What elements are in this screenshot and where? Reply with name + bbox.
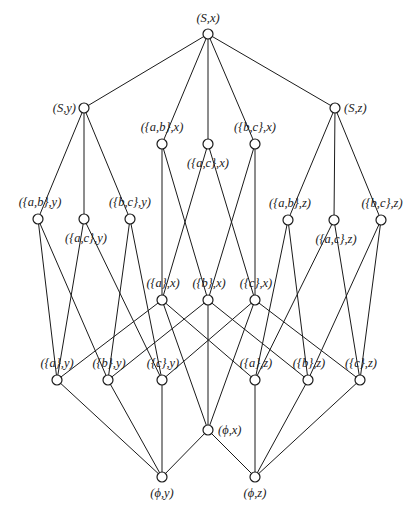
edge-b_z-phi_z xyxy=(255,380,308,477)
node-label-a_x: ({a},x) xyxy=(146,276,179,290)
node-label-phi_x: (ϕ,x) xyxy=(218,423,241,437)
edge-S_x-S_z xyxy=(208,34,335,108)
node-label-ac_x: ({a,c},x) xyxy=(187,156,229,170)
node-label-ac_y: ({a,c},y) xyxy=(65,231,107,245)
node-label-phi_z: (ϕ,z) xyxy=(244,486,267,500)
node-label-phi_y: (ϕ,y) xyxy=(150,486,173,500)
node-ab_z xyxy=(283,215,293,225)
node-ac_y xyxy=(79,214,89,224)
node-label-b_y: ({b},y) xyxy=(92,356,125,370)
node-a_y xyxy=(52,375,62,385)
hasse-diagram-svg: (S,x)(S,y)(S,z)({a,b},x)({a,c},x)({b,c},… xyxy=(0,0,417,512)
node-bc_x xyxy=(250,139,260,149)
node-b_y xyxy=(103,375,113,385)
node-c_z xyxy=(355,375,365,385)
edge-phi_x-phi_z xyxy=(208,430,255,477)
node-label-S_y: (S,y) xyxy=(53,101,76,115)
lattice-diagram: (S,x)(S,y)(S,z)({a,b},x)({a,c},x)({b,c},… xyxy=(0,0,417,512)
node-a_x xyxy=(157,295,167,305)
edge-b_y-phi_y xyxy=(108,380,162,477)
node-label-b_z: ({b},z) xyxy=(293,356,326,370)
node-a_z xyxy=(250,375,260,385)
node-c_y xyxy=(157,375,167,385)
node-label-ab_z: ({a,b},z) xyxy=(269,196,311,210)
edge-S_x-S_y xyxy=(84,34,208,108)
node-label-bc_y: ({b,c},y) xyxy=(109,195,151,209)
node-label-c_x: ({c},x) xyxy=(240,276,273,290)
node-S_y xyxy=(79,103,89,113)
node-label-S_z: (S,z) xyxy=(344,101,367,115)
node-label-b_x: ({b},x) xyxy=(192,276,225,290)
edge-phi_x-phi_y xyxy=(162,430,208,477)
node-ac_z xyxy=(329,215,339,225)
node-label-a_y: ({a},y) xyxy=(40,356,73,370)
node-bc_z xyxy=(376,215,386,225)
node-label-c_z: ({c},z) xyxy=(345,356,377,370)
edges-layer xyxy=(38,34,381,477)
edge-c_z-phi_z xyxy=(255,380,360,477)
node-label-ab_y: ({a,b},y) xyxy=(19,195,62,209)
node-ab_x xyxy=(157,139,167,149)
node-phi_x xyxy=(203,425,213,435)
node-bc_y xyxy=(125,214,135,224)
node-phi_y xyxy=(157,472,167,482)
node-S_x xyxy=(203,29,213,39)
edge-a_y-phi_y xyxy=(57,380,162,477)
node-c_x xyxy=(250,295,260,305)
node-label-c_y: ({c},y) xyxy=(147,356,180,370)
node-label-bc_x: ({b,c},x) xyxy=(234,120,276,134)
node-label-ab_x: ({a,b},x) xyxy=(141,120,184,134)
node-label-a_z: ({a},z) xyxy=(240,356,273,370)
node-label-ac_z: ({a,c},z) xyxy=(315,232,356,246)
node-b_z xyxy=(303,375,313,385)
node-label-bc_z: ({b,c},z) xyxy=(361,196,402,210)
node-S_z xyxy=(330,103,340,113)
node-phi_z xyxy=(250,472,260,482)
edge-S_z-ac_z xyxy=(334,108,335,220)
nodes-layer xyxy=(33,29,386,482)
node-ab_y xyxy=(33,214,43,224)
node-b_x xyxy=(203,295,213,305)
node-label-S_x: (S,x) xyxy=(196,11,219,25)
node-ac_x xyxy=(203,139,213,149)
